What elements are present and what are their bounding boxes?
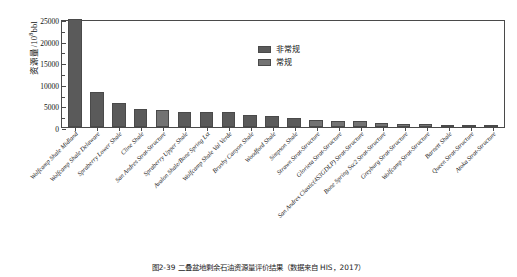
bar[interactable] <box>134 109 148 127</box>
figure-container: 资源量/108bbl 0500010000150002000025000 非常规… <box>0 0 517 277</box>
legend-label-conventional: 常规 <box>276 56 292 69</box>
bar-slot <box>152 21 174 127</box>
y-tick-label: 10000 <box>40 81 59 90</box>
bar-slot <box>305 21 327 127</box>
legend-swatch-conventional <box>258 59 271 66</box>
bar-slot <box>217 21 239 127</box>
y-axis-title-main: 资源量/10 <box>29 36 39 75</box>
bar[interactable] <box>112 103 126 127</box>
bar[interactable] <box>441 125 455 127</box>
bar[interactable] <box>397 124 411 127</box>
y-axis-title-exponent: 8 <box>27 33 34 36</box>
bar-slot <box>174 21 196 127</box>
bar-slot <box>261 21 283 127</box>
bar[interactable] <box>287 118 301 127</box>
plot-area: 0500010000150002000025000 非常规 常规 <box>61 20 505 128</box>
bar-slot <box>371 21 393 127</box>
bar-slot <box>239 21 261 127</box>
y-axis-title: 资源量/108bbl <box>27 0 39 103</box>
bar-slot <box>415 21 437 127</box>
bar-slot <box>283 21 305 127</box>
y-tick-label: 15000 <box>40 60 59 69</box>
bar-slot <box>458 21 480 127</box>
bar[interactable] <box>419 124 433 127</box>
legend-item-unconventional: 非常规 <box>258 43 300 56</box>
bar[interactable] <box>200 112 214 127</box>
y-axis-title-unit: bbl <box>29 21 39 32</box>
bar[interactable] <box>331 121 345 127</box>
x-axis-tick-labels: Wolfcamp Shale MidlandWolfcamp Shale Del… <box>61 130 505 248</box>
bar-slot <box>480 21 502 127</box>
bar[interactable] <box>309 120 323 127</box>
bar[interactable] <box>90 92 104 127</box>
bar-slot <box>64 21 86 127</box>
bar-slot <box>86 21 108 127</box>
bar[interactable] <box>178 112 192 127</box>
bar[interactable] <box>265 116 279 127</box>
legend-label-unconventional: 非常规 <box>276 43 300 56</box>
bar[interactable] <box>68 19 82 127</box>
bar[interactable] <box>222 112 236 127</box>
chart-legend: 非常规 常规 <box>258 43 300 69</box>
bar[interactable] <box>462 125 476 127</box>
bar-slot <box>195 21 217 127</box>
bar-series-group <box>62 21 504 127</box>
legend-swatch-unconventional <box>258 46 271 53</box>
bar-slot <box>327 21 349 127</box>
bar[interactable] <box>353 121 367 127</box>
bar-slot <box>436 21 458 127</box>
bar-slot <box>393 21 415 127</box>
figure-caption: 图2-39 二叠盆地剩余石油资源量评价结果（数据来自 HIS，2017） <box>0 261 517 272</box>
legend-item-conventional: 常规 <box>258 56 300 69</box>
y-tick-label: 0 <box>55 125 59 134</box>
y-tick-label: 25000 <box>40 17 59 26</box>
bar-slot <box>108 21 130 127</box>
bar[interactable] <box>375 123 389 127</box>
bar-slot <box>349 21 371 127</box>
y-tick-label: 20000 <box>40 38 59 47</box>
bar[interactable] <box>484 125 498 127</box>
bar[interactable] <box>243 115 257 127</box>
bar[interactable] <box>156 110 170 127</box>
bar-slot <box>130 21 152 127</box>
y-tick-label: 5000 <box>44 103 59 112</box>
